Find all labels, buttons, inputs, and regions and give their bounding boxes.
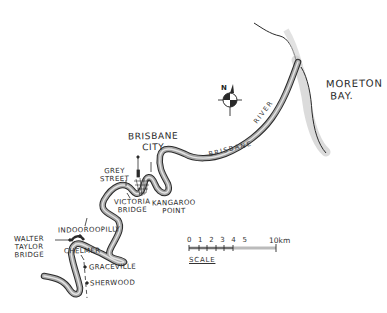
indooroopilly-label: INDOOROOPILLY (58, 225, 120, 234)
brisbane-city-line2: CITY (128, 142, 179, 154)
walter-taylor-bridge-label: WALTER TAYLOR BRIDGE (14, 235, 45, 260)
moreton-bay-line1: MORETON (326, 78, 383, 91)
walter-taylor-line3: BRIDGE (14, 251, 44, 260)
grey-street-line2: STREET (100, 175, 129, 184)
chelmer-label: CHELMER (64, 247, 101, 256)
grey-street-label: GREY STREET (100, 167, 129, 184)
sherwood-label: SHERWOOD (90, 279, 135, 288)
brisbane-river-map (0, 0, 387, 313)
brisbane-city-label: BRISBANE CITY (128, 131, 179, 154)
moreton-bay-line2: BAY. (326, 90, 383, 103)
scale-end-label: 10km (269, 236, 290, 245)
compass-north-letter: N (221, 84, 227, 92)
kangaroo-point-line2: POINT (152, 207, 196, 216)
river (44, 62, 298, 294)
victoria-bridge-line2: BRIDGE (114, 206, 151, 215)
brisbane-city-line1: BRISBANE (128, 131, 179, 143)
scale-bar (189, 244, 276, 252)
scale-ticks-label: 0 1 2 3 4 5 (187, 236, 249, 244)
scale-word-label: SCALE (189, 256, 215, 264)
kangaroo-point-label: KANGAROO POINT (152, 199, 196, 216)
moreton-bay-label: MORETON BAY. (326, 78, 383, 103)
victoria-bridge-label: VICTORIA BRIDGE (114, 198, 151, 215)
graceville-label: GRACEVILLE (89, 263, 136, 272)
